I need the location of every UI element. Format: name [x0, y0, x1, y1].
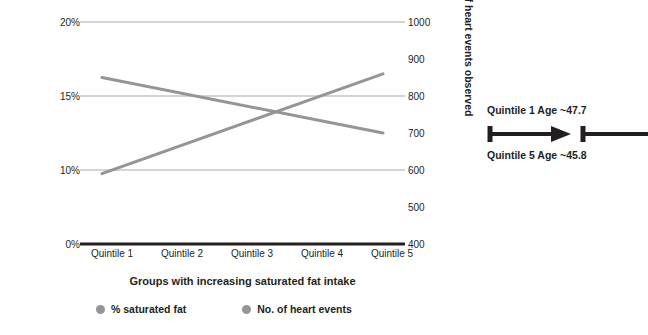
right-tick-1000: 1000	[408, 17, 468, 28]
age-annotation: Quintile 1 Age ~47.7 Quintile 5 Age ~45.…	[487, 104, 648, 168]
annotation-bottom-text: Quintile 5 Age ~45.8	[487, 149, 587, 161]
left-tick-15: 15%	[10, 91, 80, 102]
x-axis-ticks: Quintile 1 Quintile 2 Quintile 3 Quintil…	[80, 248, 405, 264]
x-tick-quintile-5: Quintile 5	[347, 248, 437, 259]
right-tick-900: 900	[408, 54, 468, 65]
right-tick-500: 500	[408, 202, 468, 213]
right-axis-title: Number of heart events observed	[461, 0, 477, 144]
legend-dot-icon	[242, 305, 251, 314]
legend-item-saturated-fat: % saturated fat	[96, 303, 186, 315]
legend-dot-icon	[96, 305, 105, 314]
legend-item-heart-events: No. of heart events	[242, 303, 352, 315]
annotation-top-text: Quintile 1 Age ~47.7	[487, 104, 587, 116]
right-tick-800: 800	[408, 91, 468, 102]
chart-figure: % saturated fat in diet 20% 15% 10% 0% 1…	[0, 0, 648, 335]
legend-label-saturated-fat: % saturated fat	[111, 303, 186, 315]
right-tick-700: 700	[408, 128, 468, 139]
legend-label-heart-events: No. of heart events	[257, 303, 352, 315]
series-lines	[80, 22, 405, 244]
x-axis-title: Groups with increasing saturated fat int…	[60, 275, 425, 287]
plot-area	[80, 22, 405, 244]
left-tick-10: 10%	[10, 165, 80, 176]
chart-legend: % saturated fat No. of heart events	[96, 303, 352, 315]
right-tick-600: 600	[408, 165, 468, 176]
annotation-arrow-icon	[487, 124, 648, 144]
left-tick-20: 20%	[10, 17, 80, 28]
